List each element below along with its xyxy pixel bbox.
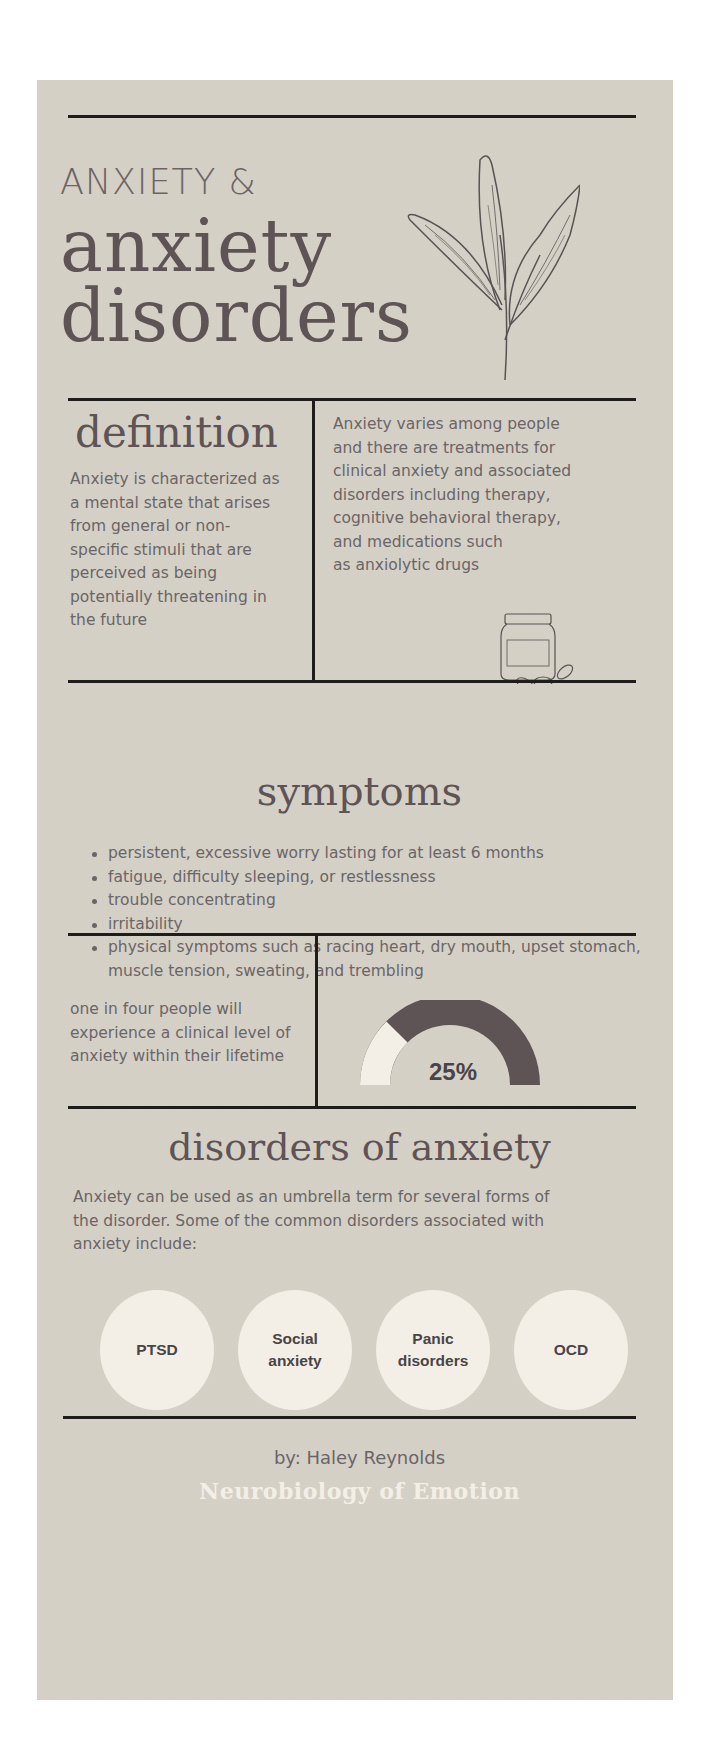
- stat-text: one in four people will experience a cli…: [70, 998, 310, 1069]
- author-byline: by: Haley Reynolds: [0, 1447, 719, 1468]
- title-prefix: ANXIETY &: [60, 162, 257, 202]
- divider-stat-top: [68, 933, 636, 936]
- divider-stat-vertical: [315, 933, 318, 1108]
- gauge-chart: 25%: [355, 1000, 555, 1110]
- symptom-item: persistent, excessive worry lasting for …: [90, 842, 650, 866]
- disorder-ocd[interactable]: OCD: [514, 1290, 628, 1410]
- definition-heading: definition: [75, 408, 278, 457]
- symptom-item: trouble concentrating: [90, 889, 650, 913]
- symptom-item: fatigue, difficulty sleeping, or restles…: [90, 866, 650, 890]
- disorders-intro: Anxiety can be used as an umbrella term …: [73, 1186, 653, 1257]
- symptom-item: physical symptoms such as racing heart, …: [90, 936, 650, 983]
- divider-footer-top: [63, 1416, 636, 1419]
- disorder-social-anxiety[interactable]: Socialanxiety: [238, 1290, 352, 1410]
- disorders-heading: disorders of anxiety: [0, 1125, 719, 1169]
- leaf-branch-icon: [380, 125, 580, 385]
- disorder-panic-disorders[interactable]: Panicdisorders: [376, 1290, 490, 1410]
- title-line-1: anxiety: [60, 210, 332, 282]
- definition-left-text: Anxiety is characterized as a mental sta…: [70, 468, 308, 633]
- divider-top: [68, 115, 636, 118]
- divider-definition-vertical: [312, 398, 315, 683]
- title-line-2: disorders: [60, 280, 413, 352]
- gauge-value-label: 25%: [429, 1058, 477, 1085]
- course-title: Neurobiology of Emotion: [0, 1478, 719, 1504]
- divider-symptoms-top: [68, 680, 636, 683]
- definition-right-text: Anxiety varies among people and there ar…: [333, 413, 633, 578]
- symptoms-heading: symptoms: [0, 768, 719, 814]
- symptoms-list: persistent, excessive worry lasting for …: [90, 842, 650, 983]
- divider-definition-top: [68, 398, 636, 401]
- divider-disorders-top: [68, 1106, 636, 1109]
- pill-bottle-icon: [495, 612, 595, 684]
- disorder-ptsd[interactable]: PTSD: [100, 1290, 214, 1410]
